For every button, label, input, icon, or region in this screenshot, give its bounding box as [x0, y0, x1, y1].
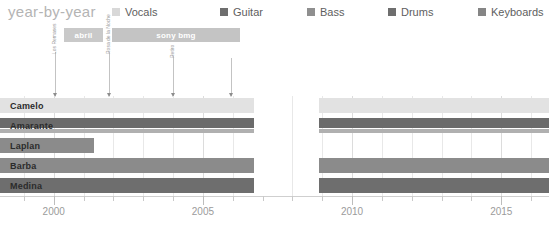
axis-tick-minor	[263, 196, 264, 201]
chart-header: year-by-year VocalsGuitarBassDrumsKeyboa…	[0, 0, 549, 26]
axis-tick-label: 2010	[341, 206, 363, 217]
chart-plot-area: CameloAmaranteLaplanBarbaMedina	[0, 96, 549, 196]
x-axis: 2000200520102015	[0, 196, 549, 227]
bar-camelo[interactable]	[319, 98, 549, 113]
axis-tick-label: 2015	[490, 206, 512, 217]
bar-barba[interactable]	[0, 158, 254, 173]
axis-tick-minor	[442, 196, 443, 201]
legend-label: Keyboards	[491, 6, 544, 18]
event-stem[interactable]	[231, 58, 232, 96]
axis-tick-major	[54, 196, 55, 205]
axis-tick-minor	[24, 196, 25, 201]
legend-item-drums[interactable]: Drums	[388, 5, 433, 19]
bar-barba[interactable]	[319, 158, 549, 173]
axis-tick-major	[352, 196, 353, 205]
legend-label: Bass	[320, 6, 344, 18]
axis-tick-minor	[531, 196, 532, 201]
legend-swatch-icon	[388, 8, 396, 16]
event-stem[interactable]: Rosa de la Noche	[109, 52, 110, 96]
axis-tick-major	[203, 196, 204, 205]
era-bar-sony-bmg[interactable]: sony bmg	[112, 28, 240, 42]
axis-tick-minor	[322, 196, 323, 201]
axis-tick-label: 2000	[43, 206, 65, 217]
axis-tick-minor	[382, 196, 383, 201]
axis-tick-minor	[143, 196, 144, 201]
axis-tick-minor	[412, 196, 413, 201]
axis-tick-minor	[233, 196, 234, 201]
era-bar-abril[interactable]: abril	[64, 28, 103, 42]
row-label-medina: Medina	[10, 181, 42, 191]
axis-line	[0, 196, 549, 197]
event-annotations: Los RemasesRosa de la NocheRetiro	[0, 44, 549, 96]
event-stem[interactable]: Retiro	[173, 56, 174, 96]
axis-tick-minor	[471, 196, 472, 201]
axis-tick-major	[501, 196, 502, 205]
axis-tick-minor	[173, 196, 174, 201]
page-title: year-by-year	[8, 3, 96, 20]
axis-tick-minor	[113, 196, 114, 201]
axis-tick-minor	[84, 196, 85, 201]
event-label: Retiro	[170, 45, 175, 58]
bar-amarante[interactable]	[319, 118, 549, 128]
row-label-barba: Barba	[10, 161, 37, 171]
legend-label: Drums	[401, 6, 433, 18]
bar-amarante-secondary[interactable]	[319, 129, 549, 133]
legend-item-keyboards[interactable]: Keyboards	[478, 5, 544, 19]
event-label: Rosa de la Noche	[106, 14, 111, 54]
legend-label: Vocals	[125, 6, 157, 18]
axis-tick-minor	[292, 196, 293, 201]
event-label: Los Remases	[52, 23, 57, 54]
row-label-camelo: Camelo	[10, 101, 44, 111]
legend-swatch-icon	[220, 8, 228, 16]
legend-item-bass[interactable]: Bass	[307, 5, 344, 19]
event-stem[interactable]: Los Remases	[55, 52, 56, 96]
chart-root: year-by-year VocalsGuitarBassDrumsKeyboa…	[0, 0, 549, 227]
era-band: abrilsony bmg	[0, 28, 549, 44]
row-label-amarante: Amarante	[10, 121, 53, 131]
axis-tick-label: 2005	[192, 206, 214, 217]
legend-swatch-icon	[478, 8, 486, 16]
legend-label: Guitar	[233, 6, 263, 18]
legend-item-vocals[interactable]: Vocals	[112, 5, 157, 19]
legend-swatch-icon	[307, 8, 315, 16]
row-label-laplan: Laplan	[10, 141, 40, 151]
legend-item-guitar[interactable]: Guitar	[220, 5, 263, 19]
legend-swatch-icon	[112, 8, 120, 16]
bar-medina[interactable]	[319, 178, 549, 193]
